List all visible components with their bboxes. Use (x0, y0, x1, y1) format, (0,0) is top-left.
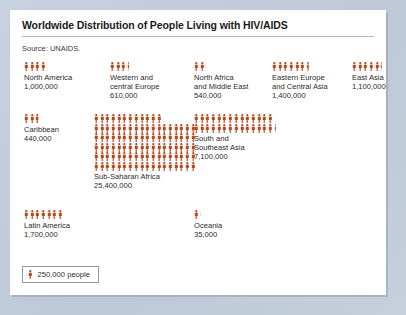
person-icon (283, 62, 288, 71)
person-icon (24, 210, 29, 219)
person-icon (122, 133, 127, 142)
person-icon (272, 62, 277, 71)
person-icon (110, 62, 115, 71)
person-icon-partial (127, 62, 132, 71)
person-icon (94, 152, 99, 161)
person-icon (140, 152, 145, 161)
region-label-oceania: Oceania (194, 221, 222, 230)
icon-group-sub-saharan-africa (94, 114, 196, 171)
region-label-south-southeast-asia: South and (194, 134, 279, 143)
icon-row (272, 62, 328, 72)
person-icon (30, 114, 35, 123)
person-icon (369, 62, 374, 71)
person-icon (191, 152, 196, 161)
person-icon (122, 114, 127, 123)
region-eastern-europe-central-asia: Eastern Europeand Central Asia1,400,000 (272, 62, 328, 100)
person-icon (168, 143, 173, 152)
person-icon (174, 152, 179, 161)
person-icon (157, 124, 162, 133)
region-label-north-america: North America (24, 73, 72, 82)
region-value-western-central-europe: 610,000 (110, 91, 159, 100)
person-icon (128, 124, 133, 133)
person-icon (122, 152, 127, 161)
person-icon (145, 152, 150, 161)
icon-row (352, 62, 386, 72)
person-icon (205, 114, 210, 123)
person-icon (41, 210, 46, 219)
person-icon (94, 114, 99, 123)
region-label-south-southeast-asia: Southeast Asia (194, 143, 279, 152)
region-north-africa-middle-east: North Africaand Middle East540,000 (194, 62, 248, 100)
person-icon (191, 162, 196, 171)
person-icon (35, 62, 40, 71)
person-icon (145, 143, 150, 152)
person-icon-partial (274, 124, 279, 133)
region-value-sub-saharan-africa: 25,400,000 (94, 181, 196, 190)
person-icon (121, 62, 126, 71)
person-icon (234, 114, 239, 123)
person-icon (105, 124, 110, 133)
person-icon (128, 143, 133, 152)
person-icon (245, 124, 250, 133)
person-icon (145, 162, 150, 171)
person-icon (100, 143, 105, 152)
icon-row (194, 114, 279, 124)
person-icon (105, 162, 110, 171)
person-icon (151, 162, 156, 171)
infographic-card: Worldwide Distribution of People Living … (10, 10, 386, 295)
person-icon (168, 152, 173, 161)
person-icon (200, 124, 205, 133)
icon-row (24, 114, 59, 124)
person-icon (24, 114, 29, 123)
region-label-western-central-europe: central Europe (110, 82, 159, 91)
icon-row (94, 162, 196, 172)
person-icon (94, 133, 99, 142)
person-icon (128, 152, 133, 161)
region-value-eastern-europe-central-asia: 1,400,000 (272, 91, 328, 100)
person-icon (251, 114, 256, 123)
person-icon (217, 124, 222, 133)
region-sub-saharan-africa: Sub-Saharan Africa25,400,000 (94, 114, 196, 190)
person-icon (111, 133, 116, 142)
person-icon (179, 143, 184, 152)
person-icon (134, 162, 139, 171)
person-icon (30, 210, 35, 219)
icon-group-western-central-europe (110, 62, 159, 72)
person-icon (157, 162, 162, 171)
person-icon (168, 124, 173, 133)
person-icon (128, 162, 133, 171)
person-icon (185, 143, 190, 152)
person-icon (111, 152, 116, 161)
person-icon (162, 124, 167, 133)
person-icon (140, 143, 145, 152)
legend-label: 250,000 people (38, 270, 90, 279)
person-icon (24, 62, 29, 71)
person-icon (157, 133, 162, 142)
person-icon (47, 210, 52, 219)
person-icon (134, 114, 139, 123)
person-icon (251, 124, 256, 133)
person-icon (217, 114, 222, 123)
icon-group-latin-america (24, 210, 70, 220)
person-icon (185, 152, 190, 161)
person-icon (222, 124, 227, 133)
region-value-oceania: 35,000 (194, 230, 222, 239)
person-icon (117, 162, 122, 171)
person-icon (94, 124, 99, 133)
person-icon (134, 133, 139, 142)
person-icon (179, 162, 184, 171)
person-icon (111, 162, 116, 171)
person-icon (162, 133, 167, 142)
person-icon (105, 152, 110, 161)
person-icon (157, 114, 162, 123)
person-icon-partial (35, 114, 40, 123)
person-icon (151, 124, 156, 133)
region-value-north-america: 1,000,000 (24, 82, 72, 91)
icon-group-eastern-europe-central-asia (272, 62, 328, 72)
source-note: Source: UNAIDS. (22, 44, 374, 53)
person-icon (28, 270, 33, 279)
person-icon (363, 62, 368, 71)
pictogram-chart: North America1,000,000Western andcentral… (22, 62, 374, 258)
person-icon (289, 62, 294, 71)
person-icon (100, 124, 105, 133)
